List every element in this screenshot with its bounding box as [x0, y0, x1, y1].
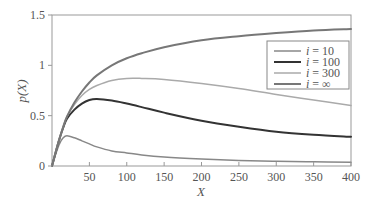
x-tick-label: 150 — [155, 170, 173, 184]
x-tick-label: 100 — [118, 170, 136, 184]
x-tick-label: 50 — [83, 170, 95, 184]
legend: i = 10i = 100i = 300i = ∞ — [267, 41, 349, 91]
x-axis-label: X — [196, 184, 206, 199]
y-tick-label: 0 — [39, 159, 45, 173]
series-line-1 — [52, 99, 351, 166]
y-tick-label: 1.5 — [30, 8, 45, 22]
series-line-2 — [52, 78, 351, 166]
chart: 5010015020025030035040000.511.5 i = 10i … — [0, 0, 376, 209]
y-tick-label: 0.5 — [30, 109, 45, 123]
legend-label: i = ∞ — [306, 77, 331, 91]
series-line-0 — [52, 136, 351, 166]
x-tick-label: 250 — [230, 170, 248, 184]
x-tick-label: 200 — [193, 170, 211, 184]
y-tick-label: 1 — [39, 58, 45, 72]
y-axis-label: p(X) — [14, 79, 29, 103]
x-tick-label: 300 — [267, 170, 285, 184]
x-tick-label: 400 — [342, 170, 360, 184]
x-tick-label: 350 — [305, 170, 323, 184]
